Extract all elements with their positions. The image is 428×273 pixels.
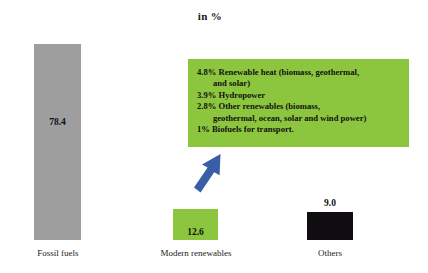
callout-line-hydropower: 3.9% Hydropower xyxy=(197,90,403,101)
callout-line-other-renewables: 2.8% Other renewables (biomass, xyxy=(197,101,403,112)
bar-value-others: 9.0 xyxy=(307,198,353,208)
callout-line-other-renewables-cont: geothermal, ocean, solar and wind power) xyxy=(197,113,403,124)
chart-title: in % xyxy=(150,10,270,22)
renewables-breakdown-callout: 4.8% Renewable heat (biomass, geothermal… xyxy=(188,59,409,147)
bar-fossil-fuels xyxy=(34,44,81,240)
category-label-modern-renewables: Modern renewables xyxy=(147,248,245,258)
callout-line-biofuels: 1% Biofuels for transport. xyxy=(197,124,403,135)
callout-line-renewable-heat: 4.8% Renewable heat (biomass, geothermal… xyxy=(197,67,403,78)
category-label-others: Others xyxy=(292,248,368,258)
callout-line-renewable-heat-cont: and solar) xyxy=(197,78,403,89)
chart-canvas: in % 78.4 12.6 9.0 Fossil fuels Modern r… xyxy=(0,0,428,273)
bar-value-fossil-fuels: 78.4 xyxy=(34,117,81,127)
category-label-fossil-fuels: Fossil fuels xyxy=(12,248,104,258)
bar-others xyxy=(307,212,353,240)
bar-value-modern-renewables: 12.6 xyxy=(173,227,218,237)
arrow-up-icon xyxy=(190,152,230,196)
